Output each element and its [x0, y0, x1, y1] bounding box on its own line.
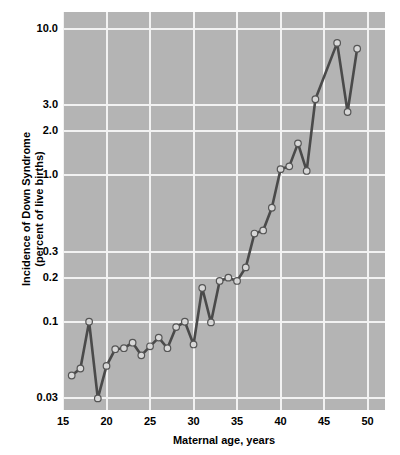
x-tick-label: 50	[361, 416, 373, 427]
data-point-marker	[354, 45, 361, 52]
chart-figure: 0.030.10.20.31.02.03.010.0 1520253035404…	[0, 0, 400, 455]
data-point-marker	[129, 339, 136, 346]
data-point-marker	[334, 40, 341, 47]
data-point-marker	[173, 324, 180, 331]
data-series-line	[63, 12, 385, 410]
x-tick-label: 40	[274, 416, 286, 427]
x-tick-label: 35	[231, 416, 243, 427]
data-point-marker	[182, 318, 189, 325]
data-point-marker	[68, 372, 75, 379]
data-point-marker	[77, 365, 84, 372]
data-point-marker	[199, 285, 206, 292]
y-axis-title-line2: (percent of live births)	[33, 94, 46, 324]
y-tick-label: 0.03	[37, 392, 58, 403]
data-point-marker	[190, 341, 197, 348]
data-point-marker	[286, 163, 293, 170]
data-point-marker	[312, 96, 319, 103]
data-point-marker	[277, 166, 284, 173]
data-point-marker	[86, 318, 93, 325]
x-tick-label: 15	[57, 416, 69, 427]
y-axis-title-line1: Incidence of Down Syndrome	[20, 94, 33, 324]
data-point-marker	[112, 346, 119, 353]
data-point-marker	[164, 345, 171, 352]
x-tick-label: 45	[318, 416, 330, 427]
data-point-marker	[234, 278, 241, 285]
x-axis-title: Maternal age, years	[63, 434, 385, 446]
data-point-marker	[242, 264, 249, 271]
data-point-marker	[251, 230, 258, 237]
x-axis-ticks: 1520253035404550	[0, 416, 400, 432]
x-tick-label: 25	[144, 416, 156, 427]
data-point-marker	[344, 109, 351, 116]
data-point-marker	[260, 227, 267, 234]
data-point-marker	[208, 319, 215, 326]
x-tick-label: 30	[187, 416, 199, 427]
data-point-marker	[147, 343, 154, 350]
plot-area	[63, 12, 385, 410]
data-point-marker	[225, 274, 232, 281]
x-tick-label: 20	[100, 416, 112, 427]
data-point-marker	[138, 352, 145, 359]
data-point-marker	[269, 204, 276, 211]
data-point-marker	[295, 140, 302, 147]
data-point-marker	[95, 395, 102, 402]
data-point-marker	[103, 363, 110, 370]
data-point-marker	[216, 278, 223, 285]
y-axis-title: Incidence of Down Syndrome (percent of l…	[20, 94, 46, 324]
y-tick-label: 10.0	[37, 23, 58, 34]
data-point-marker	[303, 168, 310, 175]
data-point-marker	[121, 345, 128, 352]
data-point-marker	[155, 334, 162, 341]
